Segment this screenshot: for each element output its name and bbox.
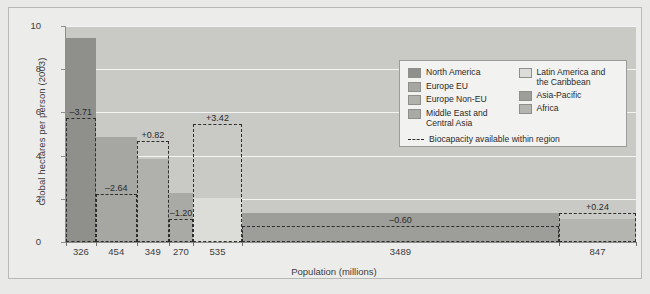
legend-right-item: Latin America and the Caribbean <box>519 67 620 87</box>
x-tick-mark <box>636 242 637 246</box>
legend-column-right: Latin America and the CaribbeanAsia-Paci… <box>519 67 620 128</box>
x-axis-title: Population (millions) <box>9 266 650 277</box>
biocapacity-outline <box>242 226 559 242</box>
x-tick-mark <box>242 242 243 246</box>
x-tick-label: 3489 <box>390 246 411 257</box>
legend-swatch-icon <box>408 109 421 119</box>
chart-figure: Global hectares per person (2003) Popula… <box>0 0 650 294</box>
x-tick-label: 270 <box>173 246 189 257</box>
legend-swatch-icon <box>408 68 421 78</box>
chart-legend: North AmericaEurope EUEurope Non-EUMiddl… <box>399 60 627 147</box>
legend-left-item: Europe EU <box>408 81 509 92</box>
legend-label: Latin America and the Caribbean <box>537 67 620 87</box>
x-tick-label: 349 <box>145 246 161 257</box>
x-tick-mark <box>169 242 170 246</box>
x-tick-mark <box>193 242 194 246</box>
legend-label: Africa <box>537 103 559 113</box>
legend-right-item: Asia-Pacific <box>519 90 620 101</box>
legend-column-left: North AmericaEurope EUEurope Non-EUMiddl… <box>408 67 509 128</box>
biocapacity-outline <box>66 118 96 242</box>
legend-swatch-icon <box>519 68 532 78</box>
y-tick-label: 6 <box>1 106 41 117</box>
chart-frame: Global hectares per person (2003) Popula… <box>8 7 642 279</box>
legend-label: North America <box>426 67 480 77</box>
y-tick-label: 2 <box>1 193 41 204</box>
legend-left-item: North America <box>408 67 509 78</box>
x-tick-mark <box>137 242 138 246</box>
x-tick-label: 454 <box>108 246 124 257</box>
legend-label: Europe Non-EU <box>426 94 487 104</box>
difference-label: +0.24 <box>586 202 609 212</box>
biocapacity-outline <box>137 141 169 242</box>
legend-label: Middle East and Central Asia <box>426 108 509 128</box>
dashed-line-icon <box>408 139 424 140</box>
gridline <box>66 26 636 27</box>
legend-swatch-icon <box>408 95 421 105</box>
x-tick-mark <box>66 242 67 246</box>
legend-left-item: Europe Non-EU <box>408 94 509 105</box>
y-tick-label: 4 <box>1 150 41 161</box>
legend-swatch-icon <box>519 91 532 101</box>
difference-label: –0.60 <box>389 215 412 225</box>
x-tick-label: 535 <box>210 246 226 257</box>
x-tick-label: 847 <box>590 246 606 257</box>
x-tick-label: 326 <box>73 246 89 257</box>
biocapacity-outline <box>96 194 137 242</box>
legend-label: Europe EU <box>426 81 468 91</box>
difference-label: +3.42 <box>206 113 229 123</box>
legend-left-item: Middle East and Central Asia <box>408 108 509 128</box>
difference-label: +0.82 <box>141 130 164 140</box>
legend-swatch-icon <box>519 104 532 114</box>
y-tick-label: 8 <box>1 63 41 74</box>
legend-right-item: Africa <box>519 103 620 114</box>
y-tick-label: 10 <box>1 20 41 31</box>
x-tick-mark <box>96 242 97 246</box>
legend-label-biocapacity: Biocapacity available within region <box>429 134 560 144</box>
legend-swatch-icon <box>408 82 421 92</box>
x-axis-line <box>66 242 636 243</box>
difference-label: –1.20 <box>170 208 193 218</box>
biocapacity-outline <box>559 213 636 242</box>
legend-label: Asia-Pacific <box>537 90 582 100</box>
difference-label: –2.64 <box>105 183 128 193</box>
biocapacity-outline <box>169 219 194 242</box>
x-tick-mark <box>559 242 560 246</box>
legend-item-biocapacity: Biocapacity available within region <box>408 133 619 144</box>
difference-label: –3.71 <box>70 107 93 117</box>
y-tick-mark <box>61 26 66 27</box>
y-tick-label: 0 <box>1 236 41 247</box>
biocapacity-outline <box>193 124 242 242</box>
